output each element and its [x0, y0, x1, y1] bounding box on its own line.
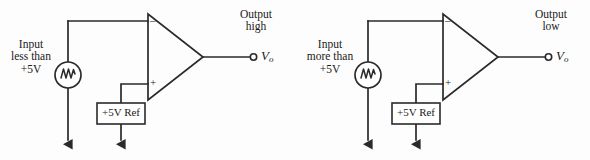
- opamp-triangle: [148, 14, 203, 100]
- output-terminal-label: Vo: [261, 49, 273, 65]
- input-condition-label: Input less than +5V: [0, 38, 64, 75]
- input-label-line-1: Input: [297, 38, 363, 50]
- opamp-inverting-sign: –: [150, 15, 156, 27]
- output-terminal-icon: [545, 54, 551, 60]
- wire-ref-to-noninverting: [416, 84, 443, 103]
- opamp-triangle: [443, 14, 498, 100]
- output-label-line-2: low: [521, 20, 581, 32]
- opamp-noninverting-sign: +: [150, 77, 156, 89]
- output-terminal-symbol: V: [261, 48, 269, 63]
- output-label-line-1: Output: [521, 8, 581, 20]
- output-label-line-1: Output: [226, 8, 286, 20]
- output-terminal-symbol: V: [556, 48, 564, 63]
- opamp-noninverting-sign: +: [445, 77, 451, 89]
- input-label-line-1: Input: [0, 38, 64, 50]
- input-label-line-3: +5V: [0, 63, 64, 75]
- comparator-circuit-right: – + Input more than +5V Output low Vo +5…: [295, 0, 590, 160]
- output-terminal-label: Vo: [556, 49, 568, 65]
- output-label-line-2: high: [226, 20, 286, 32]
- input-condition-label: Input more than +5V: [297, 38, 363, 75]
- output-terminal-subscript: o: [564, 54, 569, 64]
- input-label-line-2: less than: [0, 50, 64, 62]
- circuit-diagram-canvas: – + Input less than +5V Output high Vo +…: [0, 0, 590, 160]
- comparator-circuit-left: – + Input less than +5V Output high Vo +…: [0, 0, 295, 160]
- reference-box-label: +5V Ref: [379, 107, 453, 119]
- opamp-inverting-sign: –: [445, 15, 451, 27]
- reference-box-label: +5V Ref: [84, 107, 158, 119]
- wire-ref-to-noninverting: [121, 84, 148, 103]
- output-terminal-subscript: o: [269, 54, 274, 64]
- output-terminal-icon: [250, 54, 256, 60]
- input-label-line-3: +5V: [297, 63, 363, 75]
- output-state-label: Output high: [226, 8, 286, 33]
- output-state-label: Output low: [521, 8, 581, 33]
- input-label-line-2: more than: [297, 50, 363, 62]
